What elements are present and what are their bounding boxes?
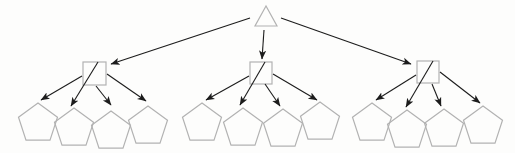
arrow-internal-3-to-leaf-12 xyxy=(440,72,480,103)
leaf-pentagon-node-3 xyxy=(92,111,131,148)
arrow-internal-3-to-leaf-10 xyxy=(406,61,433,107)
arrow-internal-2-to-leaf-8 xyxy=(273,74,317,100)
internal-square-node-3 xyxy=(417,61,439,83)
arrow-internal-1-to-leaf-2 xyxy=(71,62,98,106)
arrow-internal-3-to-leaf-9 xyxy=(376,75,416,100)
root-triangle-node xyxy=(255,6,277,26)
arrow-internal-1-to-leaf-4 xyxy=(107,74,146,101)
arrow-internal-1-to-leaf-3 xyxy=(96,86,111,105)
tree-diagram-canvas xyxy=(0,0,515,153)
leaf-pentagon-node-9 xyxy=(353,103,392,140)
arrow-root-to-internal-3 xyxy=(281,18,411,64)
arrow-internal-2-to-leaf-5 xyxy=(206,76,249,100)
tree-diagram xyxy=(0,0,515,153)
arrow-root-to-internal-1 xyxy=(111,18,250,64)
leaf-pentagon-node-1 xyxy=(19,103,58,140)
internal-square-node-2 xyxy=(250,62,272,84)
leaf-pentagon-node-5 xyxy=(183,103,222,140)
leaf-pentagon-node-12 xyxy=(464,106,503,143)
leaf-pentagon-node-10 xyxy=(388,110,427,147)
leaf-pentagon-node-8 xyxy=(301,102,340,139)
arrow-internal-1-to-leaf-1 xyxy=(41,76,82,100)
leaf-pentagon-node-4 xyxy=(129,106,168,143)
arrow-root-to-internal-2 xyxy=(262,30,264,59)
leaf-pentagon-node-11 xyxy=(425,109,464,146)
arrow-internal-3-to-leaf-11 xyxy=(432,84,441,106)
arrow-internal-2-to-leaf-7 xyxy=(265,84,280,106)
leaf-pentagon-node-7 xyxy=(264,109,303,146)
leaf-pentagon-node-2 xyxy=(55,108,94,145)
leaf-pentagon-node-6 xyxy=(224,108,263,145)
